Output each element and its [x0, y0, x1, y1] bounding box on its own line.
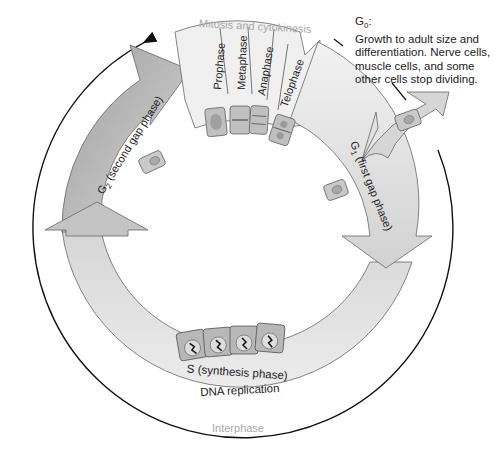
g0-title: G0: — [355, 15, 499, 33]
g0-description: G0: Growth to adult size and differentia… — [355, 15, 499, 87]
g2-arrow — [45, 45, 190, 236]
interphase-label: Interphase — [212, 422, 264, 434]
s-phase-band — [62, 230, 412, 387]
metaphase-label: Metaphase — [235, 35, 249, 90]
g0-text: Growth to adult size and differentiation… — [355, 33, 490, 86]
